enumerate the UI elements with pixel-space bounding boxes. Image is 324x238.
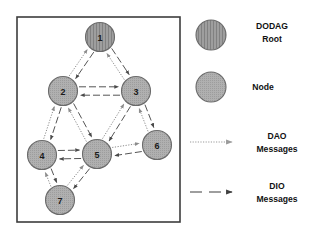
node-circle [28, 141, 57, 170]
legend-label-dodag-root: DODAG [256, 21, 288, 31]
node-circle [143, 131, 172, 160]
node-1[interactable]: 1 [86, 23, 115, 52]
dodag-diagram-svg: 1234567 DODAGRootNodeDAOMessagesDIOMessa… [0, 0, 324, 238]
node-circle [46, 186, 75, 215]
node-circle [83, 140, 112, 169]
node-2[interactable]: 2 [49, 77, 78, 106]
legend-label-dio-messages: Messages [256, 194, 297, 204]
legend-item-node: Node [196, 72, 274, 102]
legend-item-dodag-root: DODAGRoot [196, 20, 288, 50]
node-circle [49, 77, 78, 106]
figure-root: 1234567 DODAGRootNodeDAOMessagesDIOMessa… [0, 0, 324, 238]
legend-label-dio-messages: DIO [269, 181, 285, 191]
legend: DODAGRootNodeDAOMessagesDIOMessages [190, 20, 298, 204]
legend-label-dao-messages: Messages [256, 144, 297, 154]
legend-label-dao-messages: DAO [267, 131, 286, 141]
node-3[interactable]: 3 [122, 77, 151, 106]
legend-label-dodag-root: Root [262, 34, 282, 44]
legend-swatch-node-icon [196, 72, 226, 102]
legend-item-dio-messages: DIOMessages [190, 181, 298, 204]
legend-swatch-dodag-root-icon [196, 20, 226, 50]
dodag-root-circle [86, 23, 115, 52]
node-7[interactable]: 7 [46, 186, 75, 215]
legend-item-dao-messages: DAOMessages [190, 131, 298, 154]
node-4[interactable]: 4 [28, 141, 57, 170]
node-6[interactable]: 6 [143, 131, 172, 160]
node-circle [122, 77, 151, 106]
legend-label-node: Node [252, 82, 274, 92]
node-5[interactable]: 5 [83, 140, 112, 169]
